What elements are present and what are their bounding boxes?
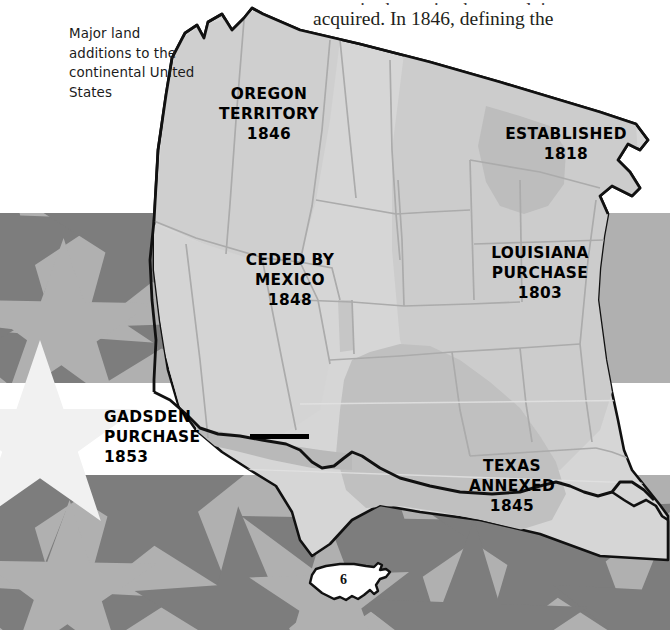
label-oregon-year: 1846 xyxy=(192,124,346,144)
label-gadsden-line2: PURCHASE xyxy=(104,427,252,447)
label-texas-year: 1845 xyxy=(422,496,602,516)
label-oregon-line2: TERRITORY xyxy=(192,104,346,124)
label-texas-line1: TEXAS xyxy=(422,456,602,476)
label-ceded-by-mexico: CEDED BY MEXICO 1848 xyxy=(208,250,372,310)
label-mexico-line2: MEXICO xyxy=(208,270,372,290)
gadsden-leader-line xyxy=(250,434,309,439)
page-number: 6 xyxy=(340,572,347,588)
label-mexico-year: 1848 xyxy=(208,290,372,310)
caption-clipped-line: terest in the region but no claim was xyxy=(313,0,665,5)
caption-line: acquired. In 1846, defining the xyxy=(313,8,553,29)
label-mexico-line1: CEDED BY xyxy=(208,250,372,270)
label-established-1818: ESTABLISHED 1818 xyxy=(468,124,664,164)
page-number-badge xyxy=(300,555,410,615)
label-louisiana-year: 1803 xyxy=(451,283,629,303)
label-oregon-territory: OREGON TERRITORY 1846 xyxy=(192,84,346,144)
label-louisiana-purchase: LOUISIANA PURCHASE 1803 xyxy=(451,243,629,303)
label-louisiana-line2: PURCHASE xyxy=(451,263,629,283)
label-louisiana-line1: LOUISIANA xyxy=(451,243,629,263)
body-caption: terest in the region but no claim was ac… xyxy=(313,0,665,33)
label-gadsden-purchase: GADSDEN PURCHASE 1853 xyxy=(104,407,252,467)
label-gadsden-year: 1853 xyxy=(104,447,252,467)
label-texas-annexed: TEXAS ANNEXED 1845 xyxy=(422,456,602,516)
legend-blurb: Major land additions to the continental … xyxy=(69,24,204,102)
label-established-line1: ESTABLISHED xyxy=(468,124,664,144)
label-texas-line2: ANNEXED xyxy=(422,476,602,496)
label-gadsden-line1: GADSDEN xyxy=(104,407,252,427)
label-oregon-line1: OREGON xyxy=(192,84,346,104)
label-established-year: 1818 xyxy=(468,144,664,164)
map-page: terest in the region but no claim was ac… xyxy=(0,0,670,630)
